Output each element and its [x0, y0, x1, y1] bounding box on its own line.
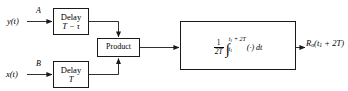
- branch-label-a: A: [36, 7, 41, 15]
- integral-lower-limit: t1: [229, 46, 246, 53]
- block-integrator: 1 2T ∫ t1 + 2T t1 (·) dt: [180, 21, 296, 70]
- wire-delay-top-to-product: [89, 22, 119, 38]
- integrator-expression: 1 2T ∫ t1 + 2T t1 (·) dt: [214, 36, 263, 56]
- output-label-arg-tail: + 2T): [322, 38, 344, 48]
- integrator-fraction-numerator: 1: [214, 39, 224, 47]
- block-delay-top: Delay T − τ: [53, 8, 89, 35]
- integral-limits: t1 + 2T t1: [229, 36, 246, 54]
- block-product: Product: [97, 38, 140, 57]
- delay-top-text: Delay T − τ: [61, 13, 81, 31]
- integrand-label: (·) dt: [247, 43, 263, 52]
- wire-delay-bottom-to-product: [89, 59, 119, 75]
- output-label: Ro(t1 + 2T): [306, 39, 344, 49]
- integrator-fraction: 1 2T: [214, 39, 224, 55]
- input-label-y: y(t): [7, 17, 19, 26]
- block-diagram-figure: y(t) x(t) A B Delay T − τ Delay T Produc…: [0, 0, 348, 91]
- delay-top-line2: T − τ: [61, 22, 81, 31]
- product-label: Product: [106, 43, 131, 51]
- block-delay-bottom: Delay T: [53, 61, 89, 88]
- delay-bottom-line2: T: [61, 75, 81, 84]
- input-label-x: x(t): [6, 70, 18, 79]
- branch-label-b: B: [36, 60, 41, 68]
- integral-upper-limit: t1 + 2T: [229, 36, 246, 43]
- integrator-fraction-denominator: 2T: [214, 47, 224, 56]
- delay-bottom-text: Delay T: [61, 66, 81, 84]
